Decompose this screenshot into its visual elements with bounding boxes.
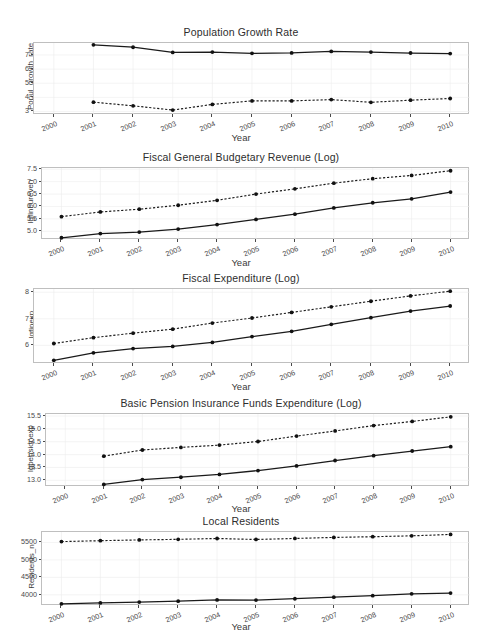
x-tick-mark (372, 239, 373, 242)
data-point (371, 201, 375, 205)
data-point (256, 440, 260, 444)
data-point (92, 336, 96, 340)
data-point (254, 538, 258, 542)
y-tick-mark (39, 230, 42, 231)
data-point (293, 212, 297, 216)
x-tick-mark (138, 605, 139, 608)
data-layer-lgpensionexp (46, 414, 470, 487)
x-tick-mark (251, 363, 252, 366)
data-point (371, 535, 375, 539)
figure-canvas: Population Growth RatePopul_growth_rateY… (0, 0, 482, 632)
data-point (218, 443, 222, 447)
data-point (332, 206, 336, 210)
x-tick-mark (411, 605, 412, 608)
x-tick-mark (53, 114, 54, 117)
plot-area-lgfinbureven (41, 167, 469, 239)
x-tick-mark (216, 605, 217, 608)
x-tick-mark (172, 363, 173, 366)
plot-area-popul-growth-rate (33, 42, 469, 114)
x-tick-mark (294, 239, 295, 242)
data-point (371, 594, 375, 598)
y-tick-mark (31, 82, 34, 83)
data-point (449, 415, 453, 419)
y-tick-label: 5500 (21, 537, 37, 546)
data-point (409, 51, 413, 55)
y-tick-label: 15.5 (27, 411, 41, 420)
data-point (210, 50, 214, 54)
data-point (52, 342, 56, 346)
data-point (254, 598, 258, 602)
y-tick-mark (43, 441, 46, 442)
data-point (256, 469, 260, 473)
y-tick-label: 6 (25, 340, 29, 349)
x-tick-mark (103, 486, 104, 489)
x-axis-label-popul-growth-rate: Year (0, 132, 482, 143)
x-tick-mark (370, 363, 371, 366)
chart-title-residents-n: Local Residents (0, 515, 482, 527)
x-tick-mark (60, 239, 61, 242)
y-tick-mark (31, 344, 34, 345)
x-tick-mark (180, 486, 181, 489)
x-tick-mark (411, 239, 412, 242)
data-point (448, 304, 452, 308)
data-point (210, 341, 214, 345)
data-point (137, 538, 141, 542)
y-tick-label: 13.0 (27, 475, 41, 484)
data-point (215, 198, 219, 202)
x-tick-mark (172, 114, 173, 117)
y-tick-label: 5 (25, 78, 29, 87)
x-tick-mark (53, 363, 54, 366)
data-point (290, 329, 294, 333)
data-point (372, 454, 376, 458)
data-point (332, 181, 336, 185)
x-tick-mark (255, 605, 256, 608)
data-point (140, 478, 144, 482)
data-point (131, 104, 135, 108)
x-tick-mark (291, 363, 292, 366)
data-point (131, 45, 135, 49)
y-tick-mark (31, 110, 34, 111)
data-point (369, 316, 373, 320)
data-point (176, 203, 180, 207)
x-tick-mark (370, 114, 371, 117)
data-point (137, 207, 141, 211)
x-tick-mark (132, 363, 133, 366)
y-tick-mark (43, 466, 46, 467)
x-tick-mark (251, 114, 252, 117)
x-tick-mark (211, 114, 212, 117)
data-point (293, 187, 297, 191)
data-point (409, 309, 413, 313)
y-tick-mark (31, 318, 34, 319)
x-tick-mark (450, 605, 451, 608)
y-tick-mark (39, 541, 42, 542)
x-tick-mark (177, 605, 178, 608)
x-tick-mark (177, 239, 178, 242)
series-line-dashed (104, 417, 451, 456)
data-layer-popul-growth-rate (34, 43, 470, 115)
y-tick-mark (39, 594, 42, 595)
chart-title-lgfinexp: Fiscal Expenditure (Log) (0, 272, 482, 284)
data-point (171, 327, 175, 331)
x-tick-mark (60, 605, 61, 608)
y-tick-label: 7.0 (27, 176, 37, 185)
data-point (92, 100, 96, 104)
chart-panel-lgfinbureven: Fiscal General Budgetary Revenue (Log)lg… (0, 151, 482, 273)
data-point (171, 51, 175, 55)
data-point (137, 600, 141, 604)
x-tick-mark (330, 114, 331, 117)
data-point (131, 347, 135, 351)
data-point (449, 591, 453, 595)
y-tick-label: 6.0 (27, 201, 37, 210)
x-tick-mark (138, 239, 139, 242)
y-tick-mark (39, 181, 42, 182)
y-tick-label: 7.5 (27, 164, 37, 173)
data-point (179, 475, 183, 479)
x-tick-mark (450, 239, 451, 242)
y-tick-label: 6.5 (27, 189, 37, 198)
y-tick-label: 14.0 (27, 449, 41, 458)
data-point (176, 227, 180, 231)
data-point (369, 50, 373, 54)
x-tick-mark (410, 363, 411, 366)
data-point (92, 43, 96, 47)
y-tick-label: 6 (25, 64, 29, 73)
